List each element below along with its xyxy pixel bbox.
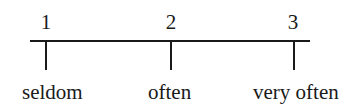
scale-value-3: 3 (278, 10, 308, 34)
tick-mark-2 (170, 41, 172, 70)
scale-label-seldom: seldom (22, 80, 83, 104)
scale-value-2: 2 (156, 10, 186, 34)
scale-label-often: often (148, 80, 191, 104)
frequency-scale-diagram: 1 2 3 seldom often very often (0, 0, 363, 111)
tick-mark-3 (293, 41, 295, 70)
scale-label-very-often: very often (253, 80, 339, 104)
scale-value-1: 1 (31, 10, 61, 34)
tick-mark-1 (45, 41, 47, 70)
